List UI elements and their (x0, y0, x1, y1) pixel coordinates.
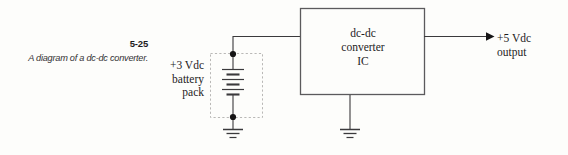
figure-caption-text: A diagram of a dc-dc converter. (18, 52, 148, 65)
junction-dot-top (230, 51, 236, 57)
arrowhead-right-icon (486, 32, 495, 41)
battery-symbol (222, 70, 244, 95)
ground-symbol-ic (340, 130, 360, 138)
ic-label-line-1: dc-dc (302, 26, 424, 40)
junction-dot-bottom (230, 114, 236, 120)
figure-caption: 5-25 A diagram of a dc-dc converter. (18, 38, 148, 65)
battery-voltage-line: +3 Vdc (146, 59, 204, 73)
ground-symbol-source (223, 130, 243, 138)
battery-type-line-1: battery (146, 73, 204, 87)
battery-pack-label: +3 Vdc battery pack (146, 59, 204, 100)
ic-label-line-3: IC (302, 54, 424, 68)
ic-label-line-2: converter (302, 40, 424, 54)
output-label: +5 Vdc output (497, 31, 561, 59)
output-voltage-line: +5 Vdc (497, 31, 561, 45)
wire-source-to-ic-input (233, 37, 301, 55)
output-name-line: output (497, 45, 561, 59)
figure-dc-dc-converter-diagram: 5-25 A diagram of a dc-dc converter. +3 … (0, 0, 568, 155)
schematic-canvas (0, 0, 568, 155)
ic-block-label: dc-dc converter IC (302, 26, 424, 68)
figure-number: 5-25 (18, 38, 148, 50)
battery-type-line-2: pack (146, 86, 204, 100)
